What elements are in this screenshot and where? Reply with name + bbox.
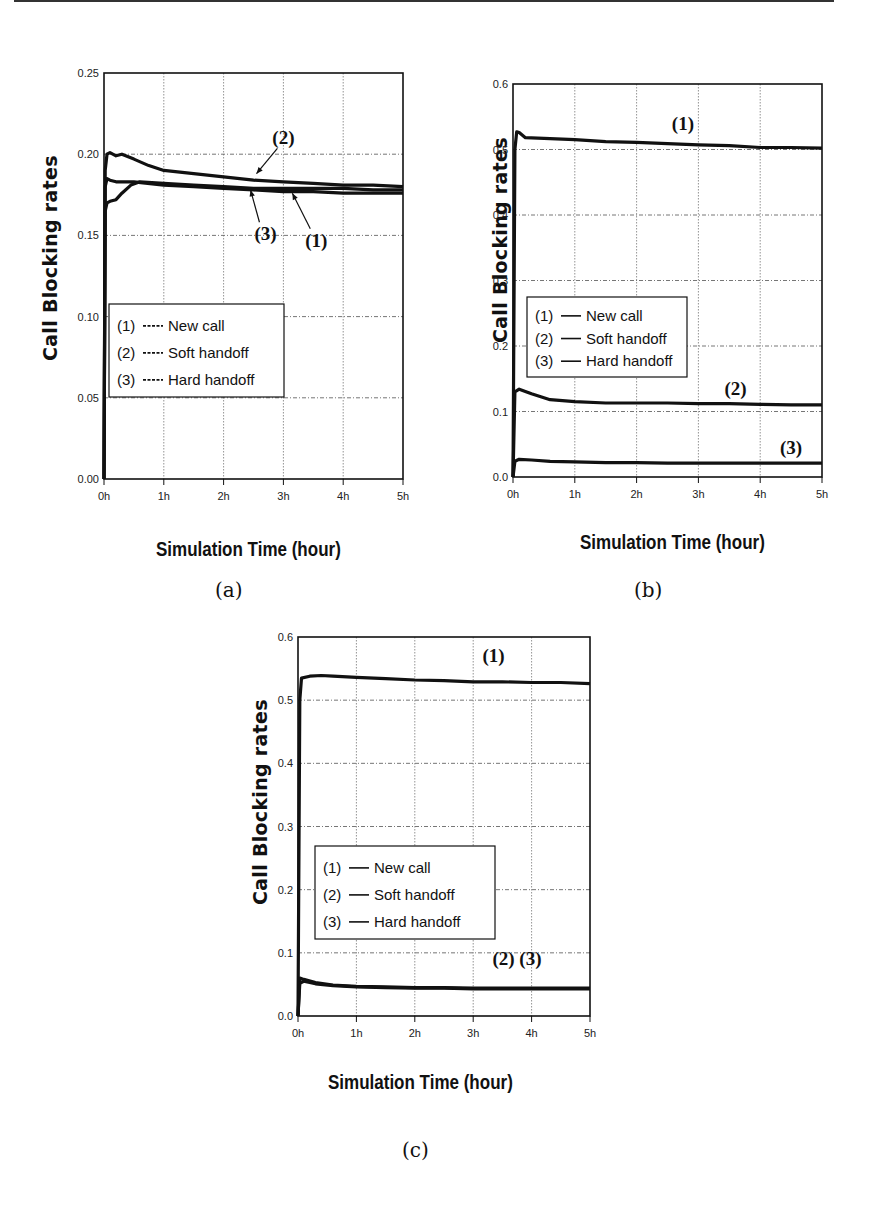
- legend-marker: (1): [323, 859, 341, 876]
- series-annotation: (1): [483, 645, 505, 667]
- x-tick-label: 3h: [467, 1027, 479, 1039]
- y-tick-label: 0.1: [278, 947, 293, 959]
- axis-ticks: 0h1h2h3h4h5h0.00.10.20.30.40.50.6: [278, 631, 596, 1039]
- x-tick-label: 0h: [292, 1027, 304, 1039]
- caption-c: (c): [402, 1138, 429, 1162]
- x-tick-label: 4h: [525, 1027, 537, 1039]
- legend: (1)New call(2)Soft handoff(3)Hard handof…: [315, 846, 495, 939]
- series-line-2: [298, 978, 590, 1016]
- legend-marker: (2): [323, 886, 341, 903]
- x-tick-label: 1h: [350, 1027, 362, 1039]
- y-tick-label: 0.5: [278, 694, 293, 706]
- legend-entry-label: Soft handoff: [374, 886, 455, 903]
- y-tick-label: 0.3: [278, 821, 293, 833]
- legend-marker: (3): [323, 913, 341, 930]
- chart-panel-c: Call Blocking rates 0h1h2h3h4h5h0.00.10.…: [0, 0, 869, 1211]
- series-annotation: (2) (3): [492, 948, 541, 970]
- plot-area-c: 0h1h2h3h4h5h0.00.10.20.30.40.50.6(1)(2) …: [0, 0, 869, 1211]
- legend-entry-label: Hard handoff: [374, 913, 461, 930]
- x-tick-label: 2h: [409, 1027, 421, 1039]
- legend-entry-label: New call: [374, 859, 431, 876]
- y-tick-label: 0.4: [278, 757, 293, 769]
- y-tick-label: 0.0: [278, 1010, 293, 1022]
- x-axis-label-c: Simulation Time (hour): [328, 1071, 513, 1094]
- y-tick-label: 0.2: [278, 884, 293, 896]
- y-tick-label: 0.6: [278, 631, 293, 643]
- x-tick-label: 5h: [584, 1027, 596, 1039]
- grid-lines: [298, 637, 590, 1016]
